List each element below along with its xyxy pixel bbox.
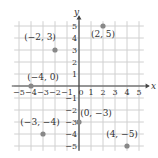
y-tick-label: −1: [65, 94, 77, 103]
point-label: (4, −5): [106, 129, 138, 139]
point-label: (2, 5): [91, 29, 115, 39]
point-label: (−3, −4): [20, 117, 59, 127]
y-tick-label: −3: [65, 118, 77, 127]
y-tick-label: −2: [65, 106, 77, 115]
x-tick-label: 4: [124, 88, 129, 97]
y-tick-label: 4: [72, 34, 77, 43]
y-tick-label: 1: [72, 70, 77, 79]
y-tick-label: 3: [72, 46, 77, 55]
point-label: (−2, 3): [24, 32, 56, 42]
data-point: [76, 119, 81, 124]
data-point: [28, 83, 33, 88]
x-tick-label: 0: [78, 88, 83, 97]
x-tick-label: 1: [88, 88, 93, 97]
y-tick-label: −4: [65, 130, 77, 139]
data-point: [100, 23, 105, 28]
point-label: (0, −3): [80, 108, 112, 118]
x-tick-label: −3: [37, 88, 49, 97]
x-tick-label: −4: [25, 88, 37, 97]
x-tick-label: 3: [112, 88, 117, 97]
y-tick-label: 5: [72, 22, 77, 31]
x-tick-label: −2: [49, 88, 61, 97]
x-tick-label: 5: [136, 88, 141, 97]
x-tick-label: −5: [13, 88, 25, 97]
data-point: [52, 47, 57, 52]
x-axis-label: x: [151, 81, 156, 91]
coordinate-plane: xy−5−4−3−2−101234554321−1−2−3−4−5(−2, 3)…: [0, 0, 158, 158]
data-point: [124, 143, 129, 148]
x-arrow-icon: [146, 84, 150, 89]
point-label: (−4, 0): [27, 72, 59, 82]
data-point: [40, 131, 45, 136]
y-axis-label: y: [73, 7, 80, 17]
y-tick-label: 2: [72, 58, 77, 67]
x-tick-label: 2: [100, 88, 105, 97]
y-tick-label: −5: [65, 142, 77, 151]
